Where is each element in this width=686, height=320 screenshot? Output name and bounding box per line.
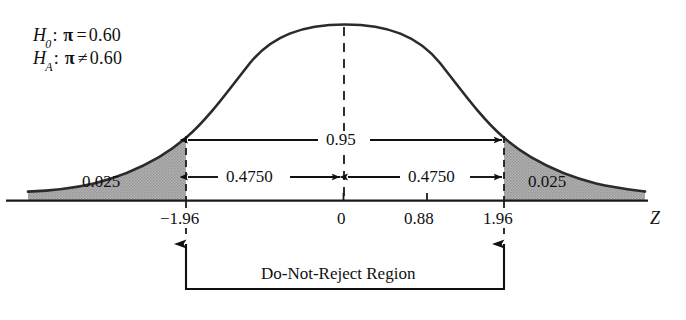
alternative-hypothesis-parameter: π [64,48,76,68]
null-hypothesis-parameter: π [62,25,74,45]
axis-label-z: Z [650,209,660,227]
right-tail-shaded-region [504,138,645,200]
confidence-level-label: 0.95 [322,131,360,148]
alternative-hypothesis: HA: π≠0.60 [33,49,122,71]
right-tail-area-label: 0.025 [528,173,566,190]
axis-tick-label-zero: 0 [337,210,346,227]
right-half-area-label: 0.4750 [404,168,459,185]
left-half-area-label: 0.4750 [222,168,277,185]
alternative-hypothesis-value: 0.60 [90,48,122,68]
alternative-hypothesis-subscript: A [45,60,53,74]
axis-tick-label-positive-critical: 1.96 [483,210,513,227]
alternative-hypothesis-colon: : [54,48,59,68]
null-hypothesis-operator: = [74,25,88,45]
null-hypothesis-value: 0.60 [89,25,121,45]
alternative-hypothesis-operator: ≠ [76,48,90,68]
axis-tick-label-test-statistic: 0.88 [404,210,434,227]
normal-distribution-figure: H0: π=0.60 HA: π≠0.60 0.025 0.025 0.95 0… [0,0,686,320]
left-tail-area-label: 0.025 [82,173,120,190]
null-hypothesis-colon: : [52,25,57,45]
null-hypothesis: H0: π=0.60 [33,26,121,48]
axis-tick-label-negative-critical: −1.96 [160,210,199,227]
do-not-reject-region-label: Do-Not-Reject Region [256,265,420,282]
